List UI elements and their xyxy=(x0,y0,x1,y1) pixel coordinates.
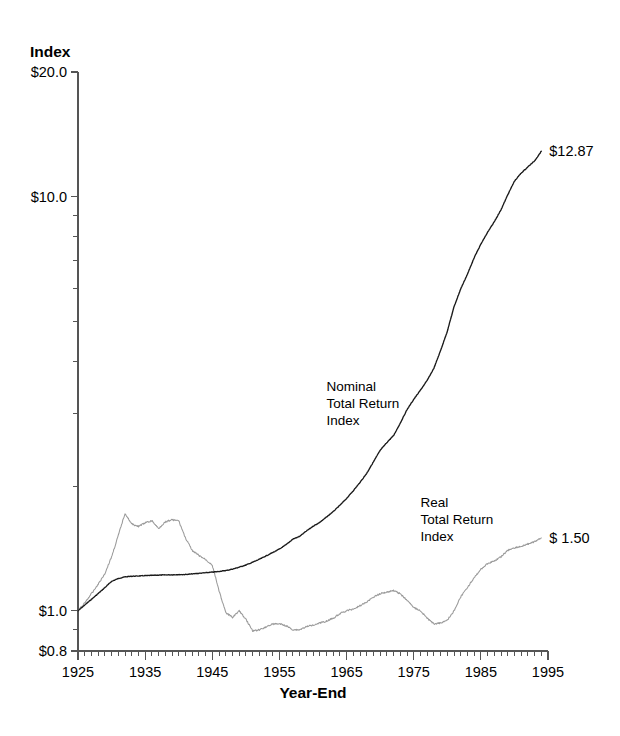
nominal-annotation-line: Nominal xyxy=(326,379,376,394)
real-annotation: RealTotal ReturnIndex xyxy=(420,495,493,544)
axes xyxy=(71,72,548,660)
y-axis-title: Index xyxy=(30,43,71,60)
nominal-annotation: NominalTotal ReturnIndex xyxy=(326,379,399,428)
nominal-total-return-line xyxy=(78,151,541,611)
y-tick-label: $0.8 xyxy=(39,643,67,659)
real-annotation-line: Total Return xyxy=(420,512,493,527)
x-tick-label: 1975 xyxy=(398,664,430,680)
x-axis-minor-ticks xyxy=(85,651,542,656)
index-line-chart: $20.0$10.0$1.0$0.8 192519351945195519651… xyxy=(0,0,620,736)
chart-annotations: NominalTotal ReturnIndexRealTotal Return… xyxy=(326,143,593,546)
real-total-return-line xyxy=(78,514,541,632)
nominal-annotation-line: Total Return xyxy=(326,396,399,411)
x-axis-tick-labels: 19251935194519551965197519851995 xyxy=(62,664,564,680)
y-tick-label: $10.0 xyxy=(31,189,67,205)
nominal-end-value: $12.87 xyxy=(549,143,593,159)
x-tick-label: 1945 xyxy=(196,664,228,680)
data-series xyxy=(78,151,541,631)
x-tick-label: 1995 xyxy=(532,664,564,680)
real-end-value: $ 1.50 xyxy=(549,530,589,546)
nominal-annotation-line: Index xyxy=(326,413,359,428)
x-tick-label: 1935 xyxy=(129,664,161,680)
x-tick-label: 1985 xyxy=(465,664,497,680)
y-tick-label: $20.0 xyxy=(31,64,67,80)
x-axis-title: Year-End xyxy=(279,684,346,701)
real-annotation-line: Index xyxy=(420,529,453,544)
y-axis-tick-labels: $20.0$10.0$1.0$0.8 xyxy=(31,64,67,659)
x-tick-label: 1955 xyxy=(263,664,295,680)
chart-container: $20.0$10.0$1.0$0.8 192519351945195519651… xyxy=(0,0,620,736)
real-annotation-line: Real xyxy=(420,495,448,510)
y-tick-label: $1.0 xyxy=(39,603,67,619)
x-tick-label: 1965 xyxy=(330,664,362,680)
x-tick-label: 1925 xyxy=(62,664,94,680)
y-axis-minor-ticks xyxy=(73,216,78,630)
